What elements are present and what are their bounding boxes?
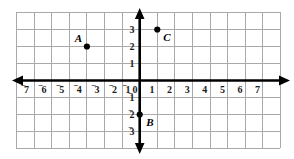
coordinate-plane-graph: ⁻ 7 ⁻ 6 ⁻ 5 ⁻ 4 ⁻ 3 ⁻ 2 ⁻ 1 0 1 2 3 4 5 … (0, 0, 294, 159)
point-b-label: B (145, 116, 153, 128)
x-tick-label: 7 (24, 84, 29, 95)
x-tick-label: 5 (220, 84, 225, 95)
x-tick-label: 4 (77, 84, 82, 95)
point-a-label: A (74, 32, 82, 44)
y-tick-label: 2 (130, 109, 135, 120)
x-tick-label: 2 (112, 84, 117, 95)
x-tick-label: 5 (59, 84, 64, 95)
point-c-label: C (163, 31, 171, 43)
x-tick-label: 1 (150, 84, 155, 95)
y-tick-label: 3 (130, 126, 135, 137)
y-tick-label: 1 (130, 58, 135, 69)
x-tick-label: 2 (167, 84, 172, 95)
x-tick-label: 6 (238, 84, 243, 95)
x-tick-label: 3 (94, 84, 99, 95)
x-tick-label: 4 (202, 84, 207, 95)
point-a-dot[interactable] (84, 43, 90, 49)
y-tick-label: 2 (130, 41, 135, 52)
y-tick-label: 1 (130, 92, 135, 103)
x-tick-label: 3 (185, 84, 190, 95)
x-tick-label: 6 (42, 84, 47, 95)
point-b-dot[interactable] (137, 111, 143, 117)
coordinate-plane-screenshot: ⁻ 7 ⁻ 6 ⁻ 5 ⁻ 4 ⁻ 3 ⁻ 2 ⁻ 1 0 1 2 3 4 5 … (0, 0, 294, 159)
x-tick-label: 7 (255, 84, 260, 95)
point-c-dot[interactable] (154, 26, 160, 32)
y-tick-label: 3 (130, 24, 135, 35)
